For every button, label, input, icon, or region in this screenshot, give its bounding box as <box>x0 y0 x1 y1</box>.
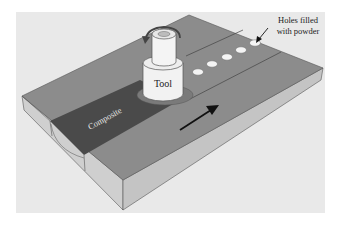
hole-2 <box>207 61 218 67</box>
tool-label: Tool <box>154 78 172 89</box>
hole-1 <box>193 69 204 75</box>
hole-3 <box>222 54 233 60</box>
holes-label-line1: Holes filled <box>278 15 319 25</box>
hole-4 <box>236 47 247 53</box>
friction-stir-processing-diagram: Tool Composite Holes filled with powder <box>0 0 339 226</box>
tool-top-bore <box>158 32 170 37</box>
holes-label-line2: with powder <box>277 26 320 36</box>
diagram-canvas: Tool Composite Holes filled with powder <box>0 0 339 226</box>
